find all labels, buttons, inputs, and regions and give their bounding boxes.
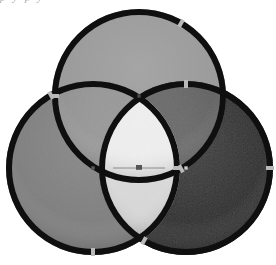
figure-canvas: p y p y [0, 0, 276, 265]
center-dot [136, 165, 142, 170]
disc-top-center-marker [137, 94, 140, 97]
disc-left-center-marker [91, 166, 94, 169]
disc-right-center-marker [184, 166, 187, 169]
venn-diagram [0, 0, 276, 265]
